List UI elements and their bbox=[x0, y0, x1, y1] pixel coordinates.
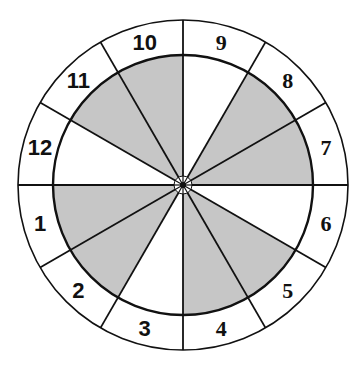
sector-label-7: 7 bbox=[320, 135, 331, 160]
sector-label-8: 8 bbox=[282, 68, 293, 93]
sector-label-11: 11 bbox=[67, 68, 90, 93]
sector-label-6: 6 bbox=[320, 211, 331, 236]
hub-dot bbox=[180, 182, 186, 188]
sector-label-5: 5 bbox=[282, 278, 293, 303]
sector-label-4: 4 bbox=[216, 316, 227, 341]
sector-label-9: 9 bbox=[216, 30, 227, 55]
sector-label-12: 12 bbox=[28, 135, 52, 160]
sector-label-10: 10 bbox=[132, 30, 156, 55]
segmented-wheel-diagram: 123456789101112 bbox=[0, 0, 363, 369]
sector-label-2: 2 bbox=[72, 278, 84, 303]
center-hub bbox=[174, 176, 192, 194]
sector-label-1: 1 bbox=[34, 211, 46, 236]
sector-label-3: 3 bbox=[139, 316, 151, 341]
